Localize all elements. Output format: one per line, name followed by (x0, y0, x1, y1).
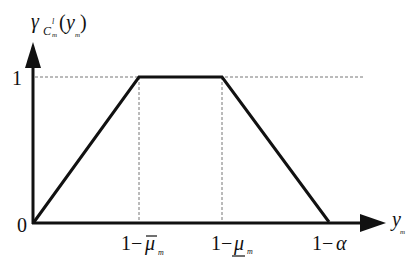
svg-text:m: m (158, 248, 164, 257)
svg-text:γ: γ (31, 10, 40, 33)
svg-text:m: m (247, 247, 253, 256)
membership-function-diagram: γ C l m ( y m ) 1 0 1− μ m 1− μ m 1− α (0, 0, 418, 268)
svg-text:1−: 1− (121, 232, 142, 254)
svg-text:C: C (43, 24, 52, 38)
y-tick-1: 1 (12, 67, 22, 89)
membership-curve (34, 77, 329, 222)
y-axis-title: γ C l m ( y m ) (31, 10, 87, 39)
svg-text:y: y (64, 11, 75, 34)
x-tick-alpha: 1− α (312, 232, 347, 254)
svg-text:1−: 1− (312, 232, 333, 254)
diagram-canvas: γ C l m ( y m ) 1 0 1− μ m 1− μ m 1− α (0, 0, 418, 268)
svg-text:): ) (80, 11, 87, 34)
x-axis-arrow-icon (360, 214, 386, 232)
x-tick-mu: 1− μ m (211, 232, 253, 256)
y-axis-arrow-icon (25, 42, 41, 68)
svg-text:μ: μ (233, 232, 244, 255)
svg-text:m: m (400, 228, 405, 236)
svg-text:1−: 1− (211, 232, 232, 254)
y-tick-0: 0 (17, 214, 27, 236)
svg-text:m: m (52, 31, 57, 39)
svg-text:l: l (52, 17, 55, 26)
svg-text:(: ( (59, 11, 66, 34)
svg-text:α: α (336, 232, 347, 254)
x-axis-title: y m (390, 208, 405, 236)
x-tick-mubar: 1− μ m (121, 232, 164, 257)
